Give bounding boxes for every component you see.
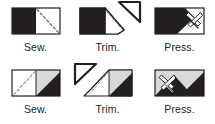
trim-unit-dark-left-icon xyxy=(72,0,143,42)
step-cell-sew-top: Sew. xyxy=(0,0,71,62)
step-cell-trim-bottom: Trim. xyxy=(72,62,143,124)
sew-unit-light-left-icon xyxy=(0,62,71,104)
step-label-trim-bottom: Trim. xyxy=(72,103,143,116)
step-label-sew-top: Sew. xyxy=(0,41,71,54)
step-label-press-top: Press. xyxy=(144,41,215,54)
press-unit-light-left-icon xyxy=(144,62,215,104)
step-cell-press-bottom: Press. xyxy=(144,62,215,124)
step-cell-press-top: Press. xyxy=(144,0,215,62)
steps-row-top: Sew. xyxy=(0,0,215,62)
step-label-sew-bottom: Sew. xyxy=(0,103,71,116)
trim-unit-light-left-icon xyxy=(72,62,143,104)
step-label-trim-top: Trim. xyxy=(72,41,143,54)
diagram-sheet: Sew. xyxy=(0,0,215,124)
step-cell-sew-bottom: Sew. xyxy=(0,62,71,124)
press-unit-dark-left-icon xyxy=(144,0,215,42)
sew-unit-dark-left-icon xyxy=(0,0,71,42)
steps-row-bottom: Sew. Trim. xyxy=(0,62,215,124)
step-cell-trim-top: Trim. xyxy=(72,0,143,62)
step-label-press-bottom: Press. xyxy=(144,103,215,116)
